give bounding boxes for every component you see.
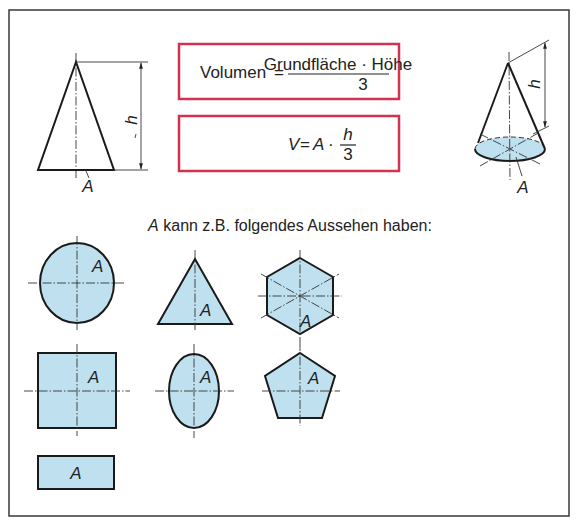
shape-hexagon: A — [258, 250, 342, 342]
formula-box-symbols: V = A · h 3 — [179, 116, 399, 171]
shape-label: A — [91, 257, 103, 276]
shape-label: A — [199, 368, 211, 387]
formula-numerator: Grundfläche · Höhe — [264, 55, 412, 74]
subtitle-a: A — [147, 217, 159, 234]
shape-label: A — [299, 312, 311, 331]
shape-circle: A — [28, 236, 126, 330]
formula-3: 3 — [343, 145, 352, 164]
shape-rectangle: A — [38, 456, 114, 489]
shape-label: A — [69, 464, 81, 483]
formula-box-words: Volumen = Grundfläche · Höhe 3 — [179, 44, 412, 99]
formula-h: h — [343, 125, 352, 144]
formula-lhs: Volumen — [200, 63, 266, 82]
formula-denominator: 3 — [358, 75, 367, 94]
formula-dot: · — [328, 135, 334, 154]
diagram-canvas: h A Volumen = Grundfläche · Höhe 3 V = A… — [0, 0, 579, 528]
height-label-right: h — [525, 79, 544, 88]
extension-line-top-right — [508, 40, 549, 63]
base-label: A — [81, 177, 93, 196]
subtitle: A kann z.B. folgendes Aussehen haben: — [147, 217, 432, 234]
shape-label: A — [199, 301, 211, 320]
base-label-right: A — [516, 178, 528, 197]
right-cone-figure: h A — [475, 40, 549, 197]
cone-left-edge — [478, 63, 508, 143]
shape-square: A — [24, 344, 130, 436]
subtitle-text: kann z.B. folgendes Aussehen haben: — [159, 217, 432, 234]
shape-label: A — [307, 369, 319, 388]
formula-a: A — [312, 135, 324, 154]
formula-equals-2: = — [300, 135, 310, 154]
shape-label: A — [87, 368, 99, 387]
cone-right-edge — [508, 63, 545, 149]
dimension-tick — [135, 134, 136, 138]
height-label: h — [122, 115, 141, 124]
left-cone-figure: h A — [38, 53, 148, 196]
shape-ellipse: A — [155, 344, 234, 438]
shape-triangle: A — [158, 250, 232, 330]
shape-pentagon: A — [262, 342, 340, 426]
